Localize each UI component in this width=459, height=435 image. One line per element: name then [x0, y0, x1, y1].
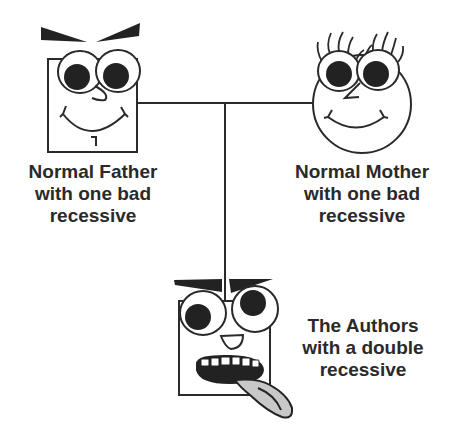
child-tongue	[235, 380, 292, 418]
father-face	[41, 23, 140, 152]
father-left-pupil	[64, 64, 90, 90]
child-left-pupil	[185, 304, 211, 330]
mother-right-pupil	[363, 61, 389, 87]
mother-label-line-3: recessive	[282, 205, 442, 227]
child-label-line-2: with a double	[290, 337, 436, 359]
father-right-pupil	[103, 63, 129, 89]
child-label: The Authors with a double recessive	[290, 315, 436, 381]
mother-label-line-2: with one bad	[282, 183, 442, 205]
father-label: Normal Father with one bad recessive	[18, 161, 168, 227]
child-face	[174, 279, 292, 418]
child-label-line-1: The Authors	[290, 315, 436, 337]
mother-left-pupil	[326, 61, 352, 87]
father-label-line-1: Normal Father	[18, 161, 168, 183]
mother-label-line-1: Normal Mother	[282, 161, 442, 183]
child-left-eyebrow	[174, 279, 222, 292]
mother-label: Normal Mother with one bad recessive	[282, 161, 442, 227]
father-right-eyebrow	[96, 23, 140, 42]
father-label-line-2: with one bad	[18, 183, 168, 205]
father-left-eyebrow	[41, 27, 87, 42]
child-label-line-3: recessive	[290, 359, 436, 381]
mother-face	[313, 32, 411, 153]
child-right-pupil	[240, 290, 266, 316]
father-label-line-3: recessive	[18, 205, 168, 227]
